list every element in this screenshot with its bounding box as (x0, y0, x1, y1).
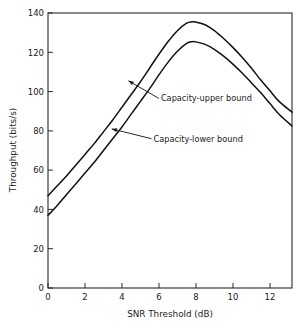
x-axis-title: SNR Threshold (dB) (127, 309, 213, 319)
x-tick-label: 4 (119, 292, 124, 302)
x-tick-label: 0 (45, 292, 50, 302)
x-tick-label: 12 (265, 292, 276, 302)
y-tick-label: 120 (28, 48, 44, 58)
y-tick-label: 80 (33, 126, 44, 136)
y-tick-label: 100 (28, 87, 44, 97)
capacity-upper-bound-curve (48, 22, 292, 196)
throughput-vs-snr-chart: 140 120 100 80 60 40 20 0 0 2 4 6 8 10 1… (0, 0, 307, 330)
y-axis-title: Throughput (bits/s) (8, 108, 18, 193)
y-tick-labels: 140 120 100 80 60 40 20 0 (28, 8, 44, 293)
x-tick-labels: 0 2 4 6 8 10 12 (45, 292, 275, 302)
annotation-lower-bound: Capacity-lower bound (112, 128, 243, 144)
capacity-lower-bound-curve (48, 42, 292, 216)
y-tick-label: 20 (33, 244, 44, 254)
x-tick-label: 8 (193, 292, 198, 302)
y-tick-label: 140 (28, 8, 44, 18)
x-axis-ticks (48, 283, 270, 288)
annotation-label-lower: Capacity-lower bound (154, 134, 243, 144)
arrow-icon (128, 81, 134, 85)
x-tick-label: 2 (82, 292, 87, 302)
y-axis-ticks (48, 13, 53, 288)
figure-container: 140 120 100 80 60 40 20 0 0 2 4 6 8 10 1… (0, 0, 307, 330)
y-tick-label: 60 (33, 165, 44, 175)
plot-frame (48, 13, 292, 288)
annotation-leader-line (112, 129, 152, 139)
x-tick-label: 6 (156, 292, 161, 302)
x-tick-label: 10 (228, 292, 239, 302)
y-tick-label: 40 (33, 205, 44, 215)
y-tick-label: 0 (39, 283, 44, 293)
annotation-label-upper: Capacity-upper bound (161, 93, 252, 103)
